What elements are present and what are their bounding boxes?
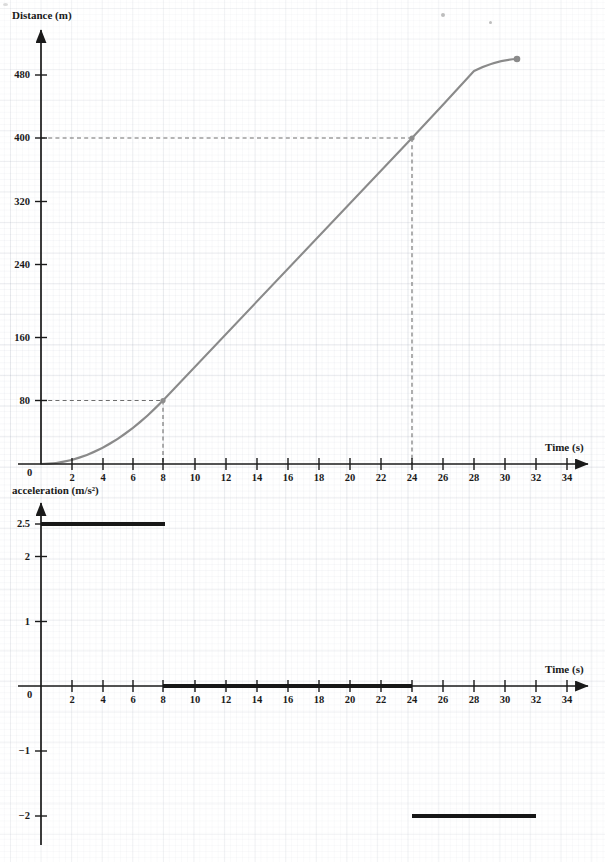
acc-x-tick-label-26: 26 — [438, 695, 449, 706]
x-tick-label-18: 18 — [314, 473, 325, 484]
x-tick-label-10: 10 — [190, 473, 201, 484]
acc-x-tick-label-16: 16 — [283, 695, 294, 706]
y-tick-label-160: 160 — [4, 332, 30, 343]
x-tick-label-16: 16 — [283, 473, 294, 484]
acc-x-tick-label-24: 24 — [407, 695, 418, 706]
x-tick-label-26: 26 — [438, 473, 449, 484]
acceleration-segments — [41, 524, 536, 816]
time-axis-title-acceleration: Time (s) — [545, 664, 584, 675]
acc-x-tick-label-28: 28 — [469, 695, 480, 706]
chart-acceleration-time — [18, 503, 588, 845]
y-tick-label-80: 80 — [4, 395, 30, 406]
x-tick-label-8: 8 — [160, 473, 165, 484]
x-tick-label-22: 22 — [376, 473, 387, 484]
y-tick-label-240: 240 — [4, 259, 30, 270]
point-marker-8-80 — [160, 398, 165, 403]
acc-x-tick-label-30: 30 — [500, 695, 511, 706]
distance-axis-title: Distance (m) — [12, 10, 72, 21]
y-tick-label-320: 320 — [4, 196, 30, 207]
origin-label-distance: 0 — [27, 468, 32, 479]
acc-x-tick-label-14: 14 — [252, 695, 263, 706]
acceleration-axis-title: acceleration (m/s²) — [12, 485, 99, 496]
acc-x-tick-label-22: 22 — [376, 695, 387, 706]
acc-x-tick-label-4: 4 — [100, 695, 105, 706]
acc-x-tick-label-8: 8 — [160, 695, 165, 706]
y-tick-label-480: 480 — [4, 70, 30, 81]
guide-lines-distance — [41, 138, 412, 464]
acc-x-tick-label-6: 6 — [130, 695, 135, 706]
acc-y-tick-label-neg2: −2 — [4, 811, 30, 822]
x-tick-label-20: 20 — [345, 473, 356, 484]
x-tick-label-2: 2 — [69, 473, 74, 484]
acc-x-tick-label-20: 20 — [345, 695, 356, 706]
acc-y-tick-label-2: 2 — [4, 551, 30, 562]
acc-x-tick-label-2: 2 — [69, 695, 74, 706]
physics-graphs-figure — [0, 0, 605, 862]
x-tick-label-30: 30 — [500, 473, 511, 484]
x-tick-label-6: 6 — [130, 473, 135, 484]
acc-x-tick-label-34: 34 — [562, 695, 573, 706]
acc-x-tick-label-32: 32 — [531, 695, 542, 706]
point-marker-24-400 — [409, 135, 414, 140]
acc-y-tick-label-1: 1 — [4, 616, 30, 627]
x-tick-label-32: 32 — [531, 473, 542, 484]
y-tick-label-400: 400 — [4, 133, 30, 144]
point-marker-34-500 — [514, 56, 521, 63]
x-tick-label-34: 34 — [562, 473, 573, 484]
x-tick-label-4: 4 — [100, 473, 105, 484]
acc-x-tick-label-10: 10 — [190, 695, 201, 706]
acc-origin-label: 0 — [27, 690, 32, 701]
chart-distance-time — [18, 30, 588, 470]
x-tick-label-14: 14 — [252, 473, 263, 484]
x-tick-label-28: 28 — [469, 473, 480, 484]
x-tick-label-12: 12 — [221, 473, 232, 484]
acc-x-tick-label-12: 12 — [221, 695, 232, 706]
acc-y-tick-label-2p5: 2.5 — [4, 519, 30, 530]
time-axis-title-distance: Time (s) — [545, 442, 584, 453]
acc-x-tick-label-18: 18 — [314, 695, 325, 706]
acc-y-tick-label-neg1: −1 — [4, 746, 30, 757]
x-tick-label-24: 24 — [407, 473, 418, 484]
distance-curve — [41, 59, 517, 464]
